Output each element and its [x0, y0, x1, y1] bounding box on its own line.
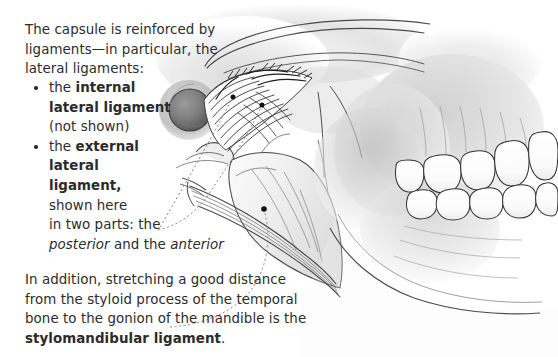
bullet-2-tail-2: in two parts: the — [49, 215, 224, 235]
bullet-2-tail-1: shown here — [49, 196, 224, 216]
posterior-band-marker — [231, 95, 236, 100]
anatomy-figure: The capsule is reinforced by ligaments—i… — [0, 0, 558, 357]
intro-line-3: lateral ligaments: — [25, 59, 218, 79]
intro-paragraph: The capsule is reinforced by ligaments—i… — [25, 20, 218, 79]
stylomandibular-marker — [261, 206, 267, 212]
note-line-1: In addition, stretching a good distance — [25, 270, 306, 290]
bullet-dot-icon — [34, 145, 38, 149]
bullet-1-bold-2: lateral ligament — [49, 98, 224, 118]
note-paragraph: In addition, stretching a good distance … — [25, 270, 306, 348]
bullet-1-bold-1: internal — [76, 80, 136, 95]
posterior-term: posterior — [49, 237, 110, 252]
bullet-2-bold-2: lateral — [49, 156, 224, 176]
bullet-2-bold-3: ligament, — [49, 176, 224, 196]
note-line-2: from the styloid process of the temporal — [25, 290, 306, 310]
intro-line-1: The capsule is reinforced by — [25, 20, 218, 40]
anterior-term: anterior — [170, 237, 224, 252]
bullet-2-line-1: the external — [49, 137, 224, 157]
anterior-band-marker — [260, 103, 265, 108]
list-item-external-ligament: the external lateral ligament, shown her… — [25, 137, 224, 255]
bullet-2-parts: posterior and the anterior — [49, 235, 224, 255]
stylomandibular-term: stylomandibular ligament — [25, 331, 221, 346]
list-item-internal-ligament: the internal lateral ligament (not shown… — [25, 78, 224, 137]
bullet-1-tail: (not shown) — [49, 117, 224, 137]
bullet-dot-icon — [34, 86, 38, 90]
bullet-1-line-1: the internal — [49, 78, 224, 98]
intro-line-2: ligaments—in particular, the — [25, 40, 218, 60]
bullet-list: the internal lateral ligament (not shown… — [25, 78, 224, 254]
note-line-3: bone to the gonion of the mandible is th… — [25, 309, 306, 329]
note-line-4: stylomandibular ligament. — [25, 329, 306, 349]
bullet-2-bold-1: external — [76, 139, 140, 154]
